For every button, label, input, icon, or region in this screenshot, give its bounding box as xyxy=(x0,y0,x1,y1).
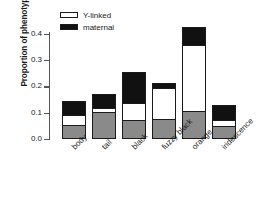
y-tick-label: 0.2 xyxy=(2,81,42,90)
y-tick-label: 0.4 xyxy=(2,29,42,38)
y-tick-mark xyxy=(44,113,49,114)
chart-legend: Y-linked maternal xyxy=(60,10,114,34)
bar-segment-y-linked xyxy=(122,103,146,120)
bar-segment-residual xyxy=(92,112,116,139)
bar-tail xyxy=(92,94,116,139)
y-tick-mark xyxy=(44,60,49,61)
legend-label-maternal: maternal xyxy=(83,23,114,32)
legend-swatch-icon-y-linked xyxy=(60,12,78,18)
bar-segment-maternal xyxy=(182,27,206,45)
legend-swatch-icon-maternal xyxy=(60,24,78,30)
y-tick-mark xyxy=(44,139,49,140)
y-tick-mark xyxy=(44,34,49,35)
legend-item-y-linked: Y-linked xyxy=(60,10,114,20)
bar-segment-maternal xyxy=(212,105,236,120)
bar-segment-y-linked xyxy=(62,115,86,124)
legend-label-y-linked: Y-linked xyxy=(83,11,111,20)
bar-segment-maternal xyxy=(62,101,86,115)
chart-figure: Proportion of phenotypic varia 0.00.10.2… xyxy=(0,0,264,198)
y-tick-mark xyxy=(44,86,49,87)
y-tick-label: 0.1 xyxy=(2,108,42,117)
bar-black xyxy=(122,72,146,139)
legend-item-maternal: maternal xyxy=(60,22,114,32)
bar-segment-y-linked xyxy=(152,88,176,119)
bar-segment-maternal xyxy=(92,94,116,108)
y-tick-label: 0.3 xyxy=(2,55,42,64)
bar-segment-maternal xyxy=(122,72,146,103)
y-tick-label: 0.0 xyxy=(2,134,42,143)
bar-fuzzy-black xyxy=(152,83,176,139)
plot-area xyxy=(50,20,264,140)
bar-segment-y-linked xyxy=(182,45,206,111)
